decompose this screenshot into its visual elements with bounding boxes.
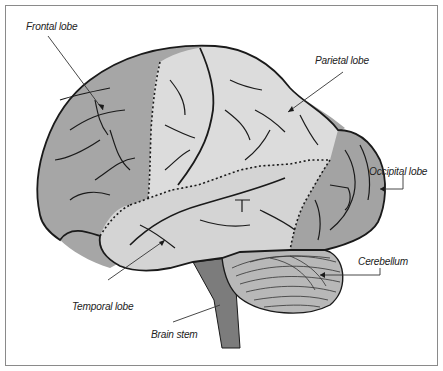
brainstem-leader-line [173, 305, 220, 322]
label-temporal-lobe: Temporal lobe [72, 300, 133, 312]
label-cerebellum: Cerebellum [358, 255, 408, 267]
parietal-leader-line [288, 72, 343, 112]
label-occipital-lobe: Occipital lobe [369, 165, 427, 177]
label-parietal-lobe: Parietal lobe [315, 54, 369, 66]
label-frontal-lobe: Frontal lobe [26, 20, 77, 32]
label-brain-stem: Brain stem [151, 328, 198, 340]
brain-diagram [0, 0, 443, 371]
